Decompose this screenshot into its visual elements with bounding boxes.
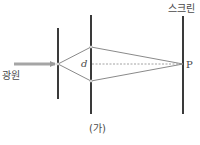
ray-bottom-slit-to-p <box>91 64 183 81</box>
screen-label: 스크린 <box>168 3 195 14</box>
bottom-slit <box>90 80 92 82</box>
top-slit <box>90 46 92 48</box>
double-slit-diagram: 광원 스크린 d P (가) <box>0 0 200 145</box>
ray-top-slit-to-p <box>91 47 183 64</box>
single-slit <box>57 63 59 65</box>
figure-caption: (가) <box>89 123 106 134</box>
slit-separation-label: d <box>81 58 87 69</box>
point-p-label: P <box>186 59 193 70</box>
light-source-label: 광원 <box>2 70 20 81</box>
